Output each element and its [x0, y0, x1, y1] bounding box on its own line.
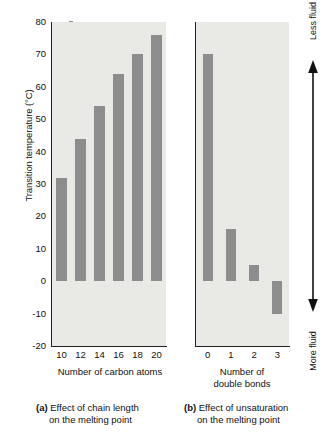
x-axis-title-b-line2: double bonds: [213, 378, 270, 389]
y-tick-label: 70: [22, 49, 46, 59]
plot-panel-a: [52, 22, 166, 346]
x-axis-title-a: Number of carbon atoms: [30, 366, 190, 378]
caption-a: (a) Effect of chain length on the meltin…: [36, 402, 176, 426]
caption-a-marker: (a): [36, 402, 48, 413]
bar: [226, 229, 236, 281]
x-tick-label: 20: [147, 349, 167, 360]
x-axis-title-b-line1: Number of: [220, 366, 264, 377]
bar: [151, 35, 162, 281]
x-tick-label: 2: [244, 349, 264, 360]
x-tick-label: 14: [90, 349, 110, 360]
x-axis-title-b: Number of double bonds: [190, 366, 294, 390]
figure-root: Transition temperature (°C) 807060504030…: [0, 0, 332, 440]
y-tick-label: 60: [22, 82, 46, 92]
x-tick-label: 18: [128, 349, 148, 360]
bar: [132, 54, 143, 281]
caption-a-line2: on the melting point: [36, 414, 176, 426]
bar: [203, 54, 213, 281]
caption-b-marker: (b): [184, 402, 196, 413]
fluidity-top-label: Less fluid: [308, 2, 318, 40]
y-tick-label: 50: [22, 114, 46, 124]
caption-b: (b) Effect of unsaturation on the meltin…: [184, 402, 324, 426]
caption-b-line1: Effect of unsaturation: [199, 402, 289, 413]
x-tick-label: 0: [198, 349, 218, 360]
bar: [94, 106, 105, 281]
x-tick-label: 16: [109, 349, 129, 360]
bar: [56, 178, 67, 282]
bar: [75, 139, 86, 282]
double-arrow-icon: [304, 60, 322, 312]
bar: [249, 265, 259, 281]
plot-panel-b: [196, 22, 289, 346]
y-tick-label: 40: [22, 147, 46, 157]
caption-b-line2: on the melting point: [184, 414, 324, 426]
fluidity-bottom-label: More fluid: [308, 331, 318, 371]
x-tick-label: 1: [221, 349, 241, 360]
y-tick-label: -20: [22, 341, 46, 351]
y-tick-label: -10: [22, 309, 46, 319]
x-tick-label: 3: [267, 349, 287, 360]
fluidity-scale: Less fluid More fluid: [296, 16, 330, 356]
y-tick-label: 30: [22, 179, 46, 189]
x-axis-line-a: [51, 346, 167, 347]
y-tick-label: 0: [22, 276, 46, 286]
y-tick-label: 10: [22, 244, 46, 254]
bar: [272, 281, 282, 313]
x-tick-label: 12: [71, 349, 91, 360]
x-axis-line-b: [195, 346, 290, 347]
x-tick-label: 10: [52, 349, 72, 360]
caption-a-line1: Effect of chain length: [50, 402, 139, 413]
bar: [113, 74, 124, 281]
y-axis-tick-labels: 80706050403020100-10-20: [22, 16, 46, 352]
y-tick-label: 80: [22, 17, 46, 27]
y-tick-label: 20: [22, 211, 46, 221]
